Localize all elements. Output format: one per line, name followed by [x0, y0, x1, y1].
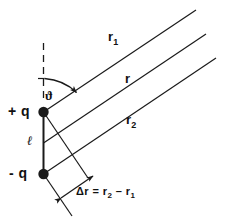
ray-label-r2-sub: 2 [131, 120, 136, 130]
ray-r1 [44, 10, 197, 112]
positive-charge-dot [38, 107, 48, 117]
path-difference-lhs: Δr [76, 185, 89, 197]
path-difference-term2-sub: 1 [130, 191, 135, 200]
ray-label-r2: r2 [126, 113, 137, 130]
negative-charge-dot [38, 169, 48, 179]
ray-label-r: r [125, 72, 130, 89]
path-difference-equals: = [92, 185, 99, 197]
negative-charge-label: - q [9, 166, 28, 180]
theta-angle-label: ϑ [45, 89, 53, 102]
wavefront-through-negative-charge [44, 174, 73, 216]
positive-charge-label: + q [8, 104, 30, 118]
ray-label-r1-sub: 1 [113, 37, 118, 47]
dipole-path-difference-figure: r1 r r2 + q - q ℓ ϑ Δr = r2 – r1 [0, 0, 226, 220]
ray-label-r-base: r [125, 71, 130, 86]
wavefront-through-positive-charge [44, 112, 89, 178]
path-difference-equation: Δr = r2 – r1 [76, 186, 135, 200]
path-difference-minus: – [116, 185, 123, 197]
ray-label-r1: r1 [108, 30, 119, 47]
separation-label: ℓ [27, 134, 33, 147]
path-difference-term1-sub: 2 [107, 191, 112, 200]
